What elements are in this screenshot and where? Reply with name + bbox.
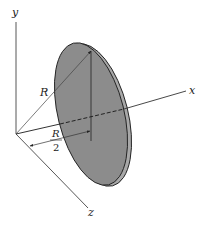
offset-numerator: R — [51, 128, 60, 139]
disk — [41, 35, 144, 194]
radius-label: R — [39, 86, 48, 99]
y-axis-label: y — [11, 6, 19, 19]
x-axis — [124, 91, 186, 109]
z-axis-label: z — [87, 206, 94, 219]
diagram-canvas: y x z R R 2 — [0, 0, 207, 226]
x-axis-label: x — [189, 84, 196, 97]
offset-denominator: 2 — [53, 142, 59, 153]
